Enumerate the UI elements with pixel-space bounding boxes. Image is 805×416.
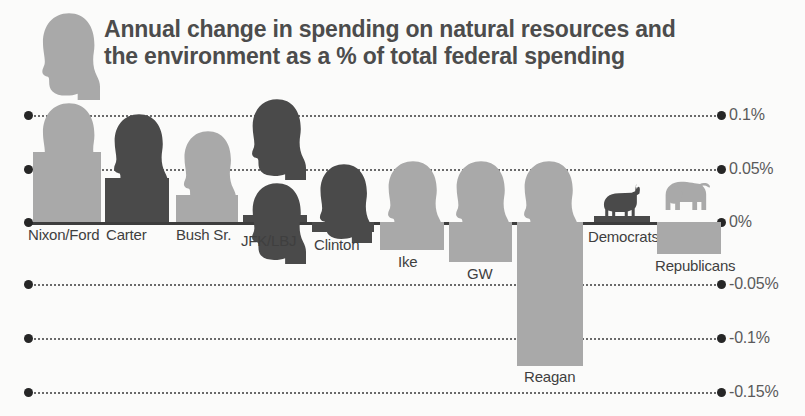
bar-jfk-lbj[interactable]: [243, 215, 307, 222]
bar-reagan[interactable]: [517, 222, 583, 366]
y-axis-tick-label: 0.1%: [729, 106, 801, 124]
gridline: [30, 392, 720, 394]
gridline-dot-right: [717, 165, 726, 174]
bar-label-jfk-lbj: JFK/LBJ: [241, 232, 296, 249]
bar-label-clinton: Clinton: [314, 236, 359, 253]
donkey-icon: [597, 182, 649, 218]
gridline-dot-left: [24, 111, 33, 120]
bar-democrats[interactable]: [594, 216, 650, 222]
infographic-chart: Annual change in spending on natural res…: [0, 0, 805, 416]
gridline-dot-right: [717, 111, 726, 120]
y-axis-tick-label: -0.15%: [729, 383, 801, 401]
y-axis-tick-label: -0.1%: [729, 329, 801, 347]
bar-label-reagan: Reagan: [524, 368, 575, 385]
gridline: [30, 284, 720, 286]
bar-label-republicans: Republicans: [655, 257, 735, 274]
bar-label-carter: Carter: [106, 226, 146, 243]
bar-label-ike: Ike: [398, 253, 417, 270]
bar-label-bush-sr: Bush Sr.: [176, 226, 231, 243]
elephant-icon: [658, 180, 720, 222]
bar-clinton[interactable]: [312, 222, 374, 232]
bar-republicans[interactable]: [657, 222, 721, 254]
gridline-dot-right: [717, 388, 726, 397]
bar-label-democrats: Democrats: [588, 228, 659, 245]
gridline-dot-left: [24, 388, 33, 397]
y-axis-tick-label: -0.05%: [729, 275, 801, 293]
y-axis-tick-label: 0.05%: [729, 160, 801, 178]
bar-gw[interactable]: [449, 222, 512, 262]
gridline: [30, 338, 720, 340]
gridline-dot-left: [24, 165, 33, 174]
y-axis-tick-label: 0%: [729, 213, 801, 231]
zero-axis-line: [28, 222, 720, 225]
bar-ike[interactable]: [380, 222, 444, 250]
gridline-dot-right: [717, 334, 726, 343]
bar-label-nixon-ford: Nixon/Ford: [28, 226, 99, 243]
bar-carter[interactable]: [105, 178, 169, 222]
bar-nixon-ford[interactable]: [33, 152, 101, 222]
bar-label-gw: GW: [467, 265, 492, 282]
gridline-dot-right: [717, 280, 726, 289]
gridline-dot-left: [24, 334, 33, 343]
president-head-silhouette: [38, 12, 100, 100]
president-head-silhouette: [248, 182, 306, 264]
president-head-silhouette: [248, 98, 306, 180]
bar-bush-sr[interactable]: [176, 195, 238, 222]
gridline-dot-left: [24, 280, 33, 289]
plot-area: 0.1%0.05%0%-0.05%-0.1%-0.15%Nixon/FordCa…: [0, 0, 805, 416]
